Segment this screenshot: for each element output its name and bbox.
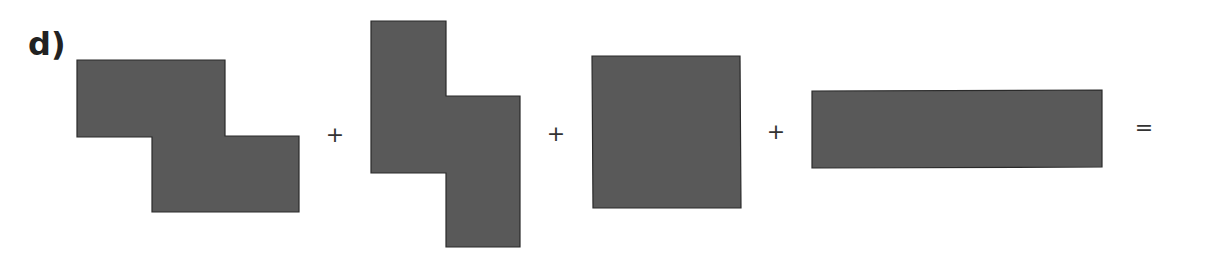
plus-sign: + (767, 121, 785, 143)
z-shape-horizontal (77, 60, 299, 212)
s-shape-vertical (371, 21, 520, 247)
long-rectangle-shape (812, 90, 1102, 168)
plus-sign: + (547, 123, 565, 145)
plus-sign: + (326, 124, 344, 146)
shapes-canvas (0, 0, 1212, 263)
equals-sign: = (1135, 117, 1153, 139)
square-shape (592, 56, 741, 208)
